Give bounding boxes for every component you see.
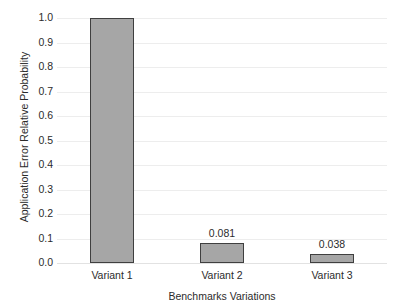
x-axis-tick-label: Variant 3: [282, 268, 382, 282]
bar-value-label: 0.038: [292, 238, 372, 250]
y-axis-tick-labels: 0.00.10.20.30.40.50.60.70.80.91.0: [15, 18, 53, 263]
x-axis-tick-label: Variant 1: [62, 268, 162, 282]
bar-value-label: 0.081: [182, 227, 262, 239]
y-axis-tick-label: 0.8: [19, 61, 53, 72]
bar: [90, 18, 134, 263]
bar-chart: Application Error Relative Probability 0…: [0, 0, 395, 308]
y-axis-tick-label: 0.6: [19, 110, 53, 121]
y-axis-tick-label: 0.4: [19, 159, 53, 170]
y-axis-tick-label: 0.2: [19, 208, 53, 219]
y-axis-tick-label: 0.1: [19, 233, 53, 244]
y-axis-tick-label: 0.7: [19, 86, 53, 97]
y-axis-tick-label: 1.0: [19, 12, 53, 23]
y-axis-tick-label: 0.5: [19, 135, 53, 146]
gridline: [57, 263, 387, 264]
x-axis-tick-labels: Variant 1Variant 2Variant 3: [57, 268, 387, 284]
x-axis-title: Benchmarks Variations: [57, 289, 387, 303]
y-axis-tick-label: 0.3: [19, 184, 53, 195]
y-axis-tick-label: 0.0: [19, 257, 53, 268]
x-axis-tick-label: Variant 2: [172, 268, 272, 282]
bar: [200, 243, 244, 263]
y-axis-tick-label: 0.9: [19, 37, 53, 48]
plot-area: 0.0810.038: [57, 18, 387, 263]
bar: [310, 254, 354, 263]
